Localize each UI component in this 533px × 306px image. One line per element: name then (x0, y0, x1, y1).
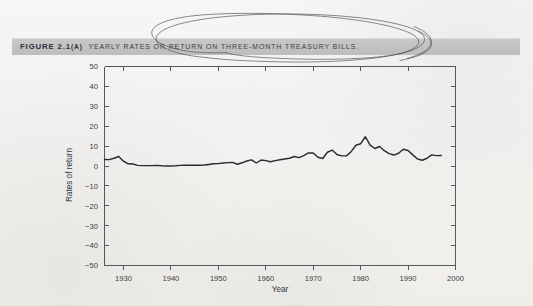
y-tick-label: −20 (85, 202, 98, 211)
y-tick-label: 0 (94, 162, 98, 171)
chart-axes: 50403020100−10−20−30−40−50 1930194019501… (85, 62, 464, 282)
chart-figure: 50403020100−10−20−30−40−50 1930194019501… (0, 0, 533, 306)
x-tick-label: 1990 (400, 274, 417, 283)
x-axis-tick-labels: 19301940195019601970198019902000 (115, 274, 464, 283)
treasury-bill-rates-line-chart: 50403020100−10−20−30−40−50 1930194019501… (0, 0, 533, 306)
x-tick-label: 1950 (210, 274, 227, 283)
y-tick-label: 20 (90, 122, 98, 131)
x-tick-label: 1940 (162, 274, 179, 283)
x-tick-label: 1980 (352, 274, 369, 283)
x-tick-label: 1960 (257, 274, 274, 283)
y-tick-label: −40 (85, 241, 98, 250)
y-axis-title: Rates of return (65, 147, 74, 202)
y-tick-label: −30 (85, 222, 98, 231)
y-tick-label: −10 (85, 182, 98, 191)
data-series-line (105, 137, 442, 166)
y-tick-label: 40 (90, 82, 98, 91)
y-tick-label: 50 (90, 62, 98, 71)
x-tick-label: 1970 (305, 274, 322, 283)
y-tick-label: −50 (85, 261, 98, 270)
x-tick-label: 2000 (447, 274, 464, 283)
x-axis-ticks (123, 67, 455, 271)
y-tick-label: 10 (90, 142, 98, 151)
y-axis-tick-labels: 50403020100−10−20−30−40−50 (85, 62, 98, 270)
y-tick-label: 30 (90, 102, 98, 111)
x-tick-label: 1930 (115, 274, 132, 283)
x-axis-title: Year (272, 285, 289, 294)
